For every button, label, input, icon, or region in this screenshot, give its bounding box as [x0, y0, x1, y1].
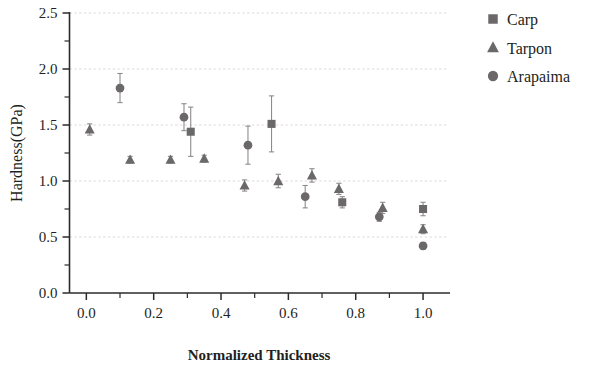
data-point-tarpon — [273, 176, 283, 185]
scatter-plot: 0.00.51.01.52.02.50.00.20.40.60.81.0 Car… — [0, 0, 593, 372]
legend-marker-carp — [488, 14, 497, 23]
legend-label-tarpon: Tarpon — [507, 40, 552, 58]
data-point-tarpon — [240, 180, 250, 189]
y-tick-label: 1.0 — [39, 173, 58, 189]
legend-marker-tarpon — [487, 41, 499, 52]
data-point-tarpon — [307, 170, 317, 179]
data-point-tarpon — [378, 203, 388, 212]
x-tick-label: 0.6 — [279, 305, 298, 321]
data-point-arapaima — [301, 192, 310, 201]
data-point-carp — [268, 120, 276, 128]
grid-layer — [70, 13, 447, 237]
data-point-tarpon — [334, 184, 344, 193]
y-tick-label: 2.0 — [39, 61, 58, 77]
data-point-carp — [338, 198, 346, 206]
x-axis-title: Normalized Thickness — [188, 347, 331, 363]
legend-label-arapaima: Arapaima — [507, 68, 570, 86]
tick-marks-layer — [63, 13, 424, 300]
data-points-layer — [85, 84, 428, 251]
axes-layer — [70, 12, 451, 293]
data-point-carp — [187, 128, 195, 136]
y-tick-label: 0.0 — [39, 285, 58, 301]
x-tick-label: 0.4 — [212, 305, 231, 321]
data-point-arapaima — [116, 84, 125, 93]
data-point-tarpon — [199, 153, 209, 162]
chart-legend: CarpTarponArapaima — [487, 11, 570, 86]
data-point-arapaima — [180, 113, 189, 122]
data-point-arapaima — [375, 212, 384, 221]
x-tick-label: 0.8 — [346, 305, 365, 321]
y-axis-title: Hardness(GPa) — [8, 104, 26, 202]
data-point-tarpon — [418, 224, 428, 233]
data-point-arapaima — [244, 141, 253, 150]
tick-labels-layer: 0.00.51.01.52.02.50.00.20.40.60.81.0 — [39, 5, 433, 321]
y-tick-label: 1.5 — [39, 117, 58, 133]
data-point-arapaima — [419, 242, 428, 251]
legend-label-carp: Carp — [507, 11, 538, 29]
data-point-tarpon — [125, 154, 135, 163]
y-tick-label: 0.5 — [39, 229, 58, 245]
y-axis-title-group: Hardness(GPa) — [8, 104, 26, 202]
x-tick-label: 1.0 — [414, 305, 433, 321]
data-point-tarpon — [85, 124, 95, 133]
y-tick-label: 2.5 — [39, 5, 58, 21]
x-tick-label: 0.0 — [77, 305, 96, 321]
data-point-carp — [419, 205, 427, 213]
x-tick-label: 0.2 — [144, 305, 163, 321]
chart-figure: 0.00.51.01.52.02.50.00.20.40.60.81.0 Car… — [0, 0, 593, 372]
legend-marker-arapaima — [488, 71, 498, 81]
data-point-tarpon — [165, 154, 175, 163]
error-bars-layer — [87, 73, 426, 249]
